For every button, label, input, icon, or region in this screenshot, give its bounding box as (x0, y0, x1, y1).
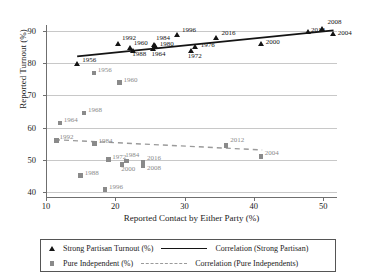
y-tick-label-50: 50 (28, 156, 37, 165)
data-point-label: 2004 (265, 150, 279, 157)
data-point-label: 2000 (266, 39, 280, 46)
data-point-marker (319, 26, 325, 31)
y-axis-title: Reported Turnout (%) (18, 0, 28, 144)
square-marker-icon (41, 261, 63, 265)
data-point-marker (117, 80, 121, 84)
data-point-marker (224, 143, 228, 147)
x-axis-title: Reported Contact by Either Party (%) (46, 213, 337, 223)
data-point-label: 2012 (230, 137, 244, 144)
data-point-label: 2008 (327, 19, 341, 26)
data-point-label: 1980 (160, 41, 174, 48)
data-point-marker (92, 141, 96, 145)
data-point-marker (58, 121, 62, 125)
data-point-marker (141, 164, 145, 168)
data-point-label: 1964 (64, 117, 78, 124)
legend-label-correlation-pure-independents: Correlation (Pure Independents) (195, 259, 298, 268)
dashed-line-sample-icon (133, 263, 195, 264)
data-point-marker (74, 61, 80, 66)
data-point-marker (124, 159, 128, 163)
x-tick-label-50: 50 (311, 202, 335, 211)
data-point-marker (92, 71, 96, 75)
legend-label-strong-partisan: Strong Partisan Turnout (%) (63, 244, 153, 253)
y-tick-label-90: 90 (28, 27, 37, 36)
data-point-label: 2004 (338, 30, 352, 37)
data-point-label: 1976 (201, 42, 215, 49)
data-point-marker (54, 138, 58, 142)
data-point-label: 1956 (82, 57, 96, 64)
plot-area: 1956199219601988198419801964199619721976… (46, 25, 337, 198)
data-point-marker (82, 111, 86, 115)
y-tick-label-60: 60 (28, 124, 37, 133)
chart-legend: Strong Partisan Turnout (%) Correlation … (40, 239, 336, 272)
data-point-label: 1992 (59, 134, 73, 141)
data-point-marker (258, 41, 264, 46)
data-point-label: 1988 (85, 170, 99, 177)
solid-line-sample-icon (153, 248, 215, 249)
legend-label-correlation-strong-partisan: Correlation (Strong Partisan) (215, 244, 308, 253)
x-tick-label-20: 20 (103, 202, 127, 211)
x-tick-label-40: 40 (242, 202, 266, 211)
data-point-marker (103, 187, 107, 191)
data-point-label: 2016 (147, 155, 161, 162)
data-point-label: 1996 (182, 27, 196, 34)
data-point-label: 1996 (109, 184, 123, 191)
x-tick-label-10: 10 (34, 202, 58, 211)
data-point-marker (106, 157, 110, 161)
legend-label-pure-independent: Pure Independent (%) (63, 259, 133, 268)
x-tick-label-30: 30 (173, 202, 197, 211)
data-point-label: 1988 (132, 51, 146, 58)
data-point-marker (78, 173, 82, 177)
data-point-label: 1968 (88, 107, 102, 114)
data-point-label: 2008 (147, 165, 161, 172)
data-point-label: 2000 (121, 166, 135, 173)
chart-root: Reported Turnout (%) 405060708090 102030… (0, 0, 375, 280)
data-point-label: 1964 (151, 51, 165, 58)
data-point-label: 2016 (221, 30, 235, 37)
data-point-label: 1984 (125, 152, 139, 159)
triangle-marker-icon (41, 246, 63, 251)
data-point-marker (192, 44, 198, 49)
y-tick-label-80: 80 (28, 59, 37, 68)
data-point-marker (115, 41, 121, 46)
y-tick-label-40: 40 (28, 188, 37, 197)
data-point-label: 1956 (98, 67, 112, 74)
legend-row-strong-partisan: Strong Partisan Turnout (%) Correlation … (41, 241, 335, 256)
data-point-label: 1984 (99, 138, 113, 145)
data-point-marker (174, 32, 180, 37)
data-point-marker (305, 29, 311, 34)
data-point-marker (213, 35, 219, 40)
y-tick-label-70: 70 (28, 91, 37, 100)
data-point-marker (330, 31, 336, 36)
data-point-label: 1960 (134, 40, 148, 47)
data-point-marker (259, 154, 263, 158)
legend-row-pure-independent: Pure Independent (%) Correlation (Pure I… (41, 256, 335, 271)
data-point-label: 1972 (188, 53, 202, 60)
data-point-label: 1960 (123, 77, 137, 84)
